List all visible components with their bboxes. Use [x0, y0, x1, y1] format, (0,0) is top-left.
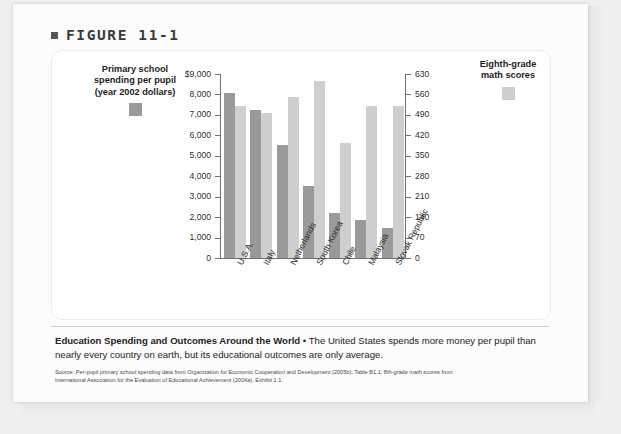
caption-separator: • [300, 335, 309, 346]
right-axis-tick-label: 560 [415, 89, 429, 99]
right-axis-tick [406, 258, 411, 259]
left-axis-tick [215, 156, 220, 157]
left-axis-tick-label: 6,000 [151, 130, 211, 140]
right-axis-tick-label: 350 [415, 150, 429, 160]
bar-math-score [366, 106, 377, 258]
right-axis-tick [406, 94, 411, 95]
bar-chart-plot: 01,0002,0003,0004,0005,0006,0007,0008,00… [52, 51, 550, 319]
left-axis-tick [215, 176, 220, 177]
right-axis-tick-label: 0 [415, 253, 420, 263]
chart-card: Primary school spending per pupil (year … [51, 50, 551, 320]
left-axis-tick [215, 74, 220, 75]
right-axis-tick-label: 280 [415, 171, 429, 181]
bar-math-score [288, 97, 299, 258]
right-axis-tick [406, 176, 411, 177]
left-axis-tick [215, 217, 220, 218]
figure-caption: Education Spending and Outcomes Around t… [55, 334, 549, 361]
left-axis-tick [215, 197, 220, 198]
scan-edge-shadow-bottom [20, 402, 595, 416]
right-axis-tick-label: 420 [415, 130, 429, 140]
figure-heading: FIGURE 11-1 [51, 27, 180, 43]
figure-source-note: Source: Per-pupil primary school spendin… [55, 369, 555, 384]
left-axis-tick-label: 3,000 [151, 191, 211, 201]
right-axis-tick [406, 197, 411, 198]
right-axis-tick [406, 156, 411, 157]
right-axis-tick-label: 630 [415, 69, 429, 79]
caption-headline: Education Spending and Outcomes Around t… [55, 335, 300, 346]
left-axis-tick [215, 94, 220, 95]
left-axis-tick [215, 238, 220, 239]
left-axis-tick-label: 8,000 [151, 89, 211, 99]
scan-edge-shadow-right [588, 6, 604, 402]
figure-number-label: FIGURE 11-1 [66, 27, 180, 43]
caption-divider [51, 326, 549, 327]
bar-spending [224, 93, 235, 258]
bar-spending [355, 220, 366, 258]
left-axis-tick-label: 5,000 [151, 150, 211, 160]
left-axis-tick [215, 115, 220, 116]
left-axis-tick-label: 1,000 [151, 232, 211, 242]
bar-math-score [314, 81, 325, 258]
source-line-1: Source: Per-pupil primary school spendin… [55, 369, 555, 377]
bar-spending [277, 145, 288, 258]
bar-math-score [235, 106, 246, 258]
right-axis-tick-label: 210 [415, 191, 429, 201]
left-axis-tick [215, 258, 220, 259]
right-axis-tick [406, 217, 411, 218]
left-axis-tick-label: 4,000 [151, 171, 211, 181]
left-axis-tick-label: $9,000 [151, 69, 211, 79]
right-axis-tick [406, 115, 411, 116]
bar-math-score [393, 106, 404, 258]
right-axis-tick [406, 74, 411, 75]
bar-math-score [340, 143, 351, 258]
source-line-2: International Association for the Evalua… [55, 377, 555, 385]
square-bullet-icon [51, 32, 58, 39]
left-axis-tick-label: 0 [151, 253, 211, 263]
bar-spending [250, 110, 261, 258]
left-axis-tick-label: 2,000 [151, 212, 211, 222]
left-axis-tick-label: 7,000 [151, 109, 211, 119]
bar-math-score [261, 113, 272, 258]
right-axis-tick-label: 490 [415, 109, 429, 119]
right-value-axis [405, 74, 406, 259]
right-axis-tick [406, 135, 411, 136]
left-axis-tick [215, 135, 220, 136]
